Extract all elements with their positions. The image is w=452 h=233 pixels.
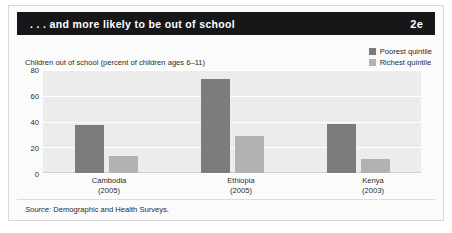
plot-wrapper: 020406080 [25, 70, 421, 173]
legend-swatch-richest [369, 59, 376, 66]
legend-item-poorest: Poorest quintile [369, 47, 432, 56]
legend-item-richest: Richest quintile [369, 58, 432, 67]
bar-cambodia-poorest [75, 125, 104, 173]
figure-panel: . . . and more likely to be out of schoo… [0, 0, 452, 233]
chart-subtitle: Children out of school (percent of child… [25, 58, 205, 67]
x-axis-label: Kenya(2003) [307, 176, 439, 196]
x-axis-label: Cambodia(2005) [43, 176, 175, 196]
chart-legend: Poorest quintile Richest quintile [369, 47, 432, 67]
source-prefix: Source: [25, 205, 51, 214]
bar-kenya-richest [361, 159, 390, 173]
y-axis-tick: 20 [31, 144, 39, 153]
bar-cambodia-richest [109, 156, 138, 173]
legend-label-poorest: Poorest quintile [380, 47, 432, 56]
legend-swatch-poorest [369, 48, 376, 55]
source-note: Source: Demographic and Health Surveys. [25, 205, 169, 214]
x-axis-label-year: (2005) [43, 186, 175, 196]
x-axis-label-year: (2005) [175, 186, 307, 196]
bar-pair [43, 70, 169, 173]
plot-area: 020406080 [43, 70, 421, 173]
bar-pair [295, 70, 421, 173]
y-axis-tick: 40 [31, 118, 39, 127]
x-axis-label-year: (2003) [307, 186, 439, 196]
bar-ethiopia-poorest [201, 79, 230, 173]
figure-code: 2e [410, 18, 423, 30]
x-axis-labels: Cambodia(2005)Ethiopia(2005)Kenya(2003) [43, 176, 439, 196]
chart-title-bar: . . . and more likely to be out of schoo… [17, 12, 435, 35]
bar-ethiopia-richest [235, 136, 264, 173]
y-axis-tick: 60 [31, 92, 39, 101]
x-axis-label-country: Cambodia [43, 176, 175, 186]
source-divider [17, 199, 435, 200]
page-title: . . . and more likely to be out of schoo… [30, 18, 235, 30]
bar-group [43, 70, 169, 173]
x-axis-label-country: Kenya [307, 176, 439, 186]
y-axis-tick: 80 [31, 66, 39, 75]
bar-group [295, 70, 421, 173]
legend-label-richest: Richest quintile [380, 58, 432, 67]
gridline: 0 [43, 173, 421, 174]
bar-pair [169, 70, 295, 173]
x-axis-label: Ethiopia(2005) [175, 176, 307, 196]
bar-kenya-poorest [327, 124, 356, 173]
x-axis-label-country: Ethiopia [175, 176, 307, 186]
bar-group [169, 70, 295, 173]
bar-groups [43, 70, 421, 173]
source-text: Demographic and Health Surveys. [53, 205, 169, 214]
y-axis-tick: 0 [35, 170, 39, 179]
